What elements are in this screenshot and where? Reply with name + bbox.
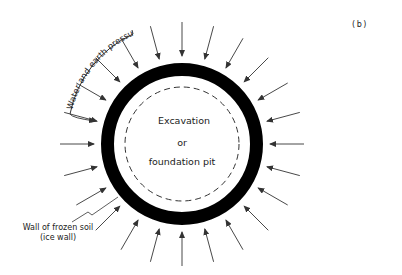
center-label-line2: or	[177, 137, 187, 148]
center-label-line1: Excavation	[158, 115, 210, 126]
pressure-arrow	[258, 83, 288, 100]
pressure-arrow	[244, 58, 268, 82]
pressure-arrow	[64, 112, 97, 121]
pressure-arrow	[267, 112, 300, 121]
pressure-arrow	[258, 188, 288, 205]
pressure-arrow	[226, 220, 243, 250]
pressure-arrow	[267, 167, 300, 176]
wall-label-leader	[72, 197, 118, 222]
pressure-arrow	[150, 26, 159, 59]
pressure-arrow	[226, 38, 243, 68]
center-label-line3: foundation pit	[149, 156, 216, 167]
panel-label: (b)	[352, 20, 368, 29]
wall-label-line1: Wall of frozen soil	[23, 223, 94, 232]
pressure-arrow	[205, 229, 214, 262]
wall-label-line2: (ice wall)	[40, 233, 76, 242]
ice-wall-diagram: Excavation or foundation pit (b) Water a…	[0, 0, 402, 275]
pressure-arrow	[150, 229, 159, 262]
pressure-label: Water and earth pressure	[0, 0, 135, 111]
pressure-arrow	[205, 26, 214, 59]
pressure-arrow	[121, 220, 138, 250]
pressure-arrow	[76, 188, 106, 205]
pressure-arrow	[64, 167, 97, 176]
pressure-arrow	[244, 206, 268, 230]
